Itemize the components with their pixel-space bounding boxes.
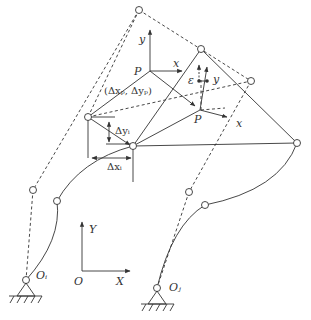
label-P-top: P [134,66,141,77]
label-O-j: Oⱼ [169,282,181,293]
label-world-X: X [116,276,124,287]
label-world-O: O [74,276,83,287]
original-linkage [26,49,297,288]
label-x-lower: x [236,118,242,129]
label-world-Y: Y [89,224,96,235]
mechanism-diagram: y P x (Δxₚ, Δyₚ) Δyᵢ Δxᵢ ε y P x Y X O O… [0,0,311,320]
label-y-top: y [139,34,145,45]
displaced-linkage [26,10,251,288]
ground-supports [9,283,174,311]
label-delta-y: Δyᵢ [115,126,130,136]
label-y-lower: y [213,74,219,85]
label-O-i: Oᵢ [36,270,47,281]
label-delta-x: Δxᵢ [107,162,122,172]
label-delta-p: (Δxₚ, Δyₚ) [104,86,152,96]
label-epsilon: ε [188,75,194,86]
label-P-lower: P [194,114,201,125]
label-x-top: x [173,58,179,69]
joint-nodes [23,7,301,292]
